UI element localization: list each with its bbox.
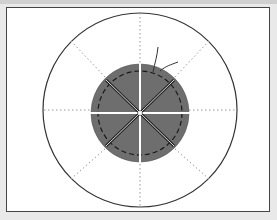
diagram-canvas [0, 0, 277, 220]
center-point [138, 111, 142, 115]
